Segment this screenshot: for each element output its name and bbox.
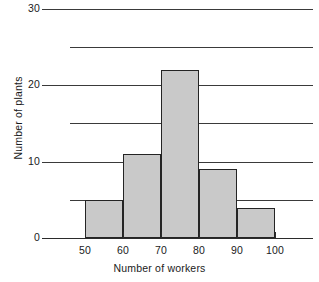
ytick-stub-30 (42, 9, 85, 10)
xtick-mark-90 (237, 232, 238, 239)
xtick-label-80: 80 (179, 244, 219, 256)
ytick-label-30: 30 (6, 3, 40, 14)
xtick-mark-80 (199, 232, 200, 239)
ytick-label-0: 0 (6, 232, 40, 243)
gridline-30 (85, 9, 313, 10)
ytick-stub-10 (42, 162, 85, 163)
gridline-10 (85, 162, 313, 163)
ytick-stub-20 (42, 85, 85, 86)
xtick-mark-100 (275, 232, 276, 239)
xtick-label-70: 70 (141, 244, 181, 256)
bar-60-70 (123, 154, 161, 238)
ytick-30: 30 (0, 3, 40, 14)
ytick-0: 0 (0, 232, 40, 243)
x-axis-title: Number of workers (0, 262, 319, 274)
y-axis-title: Number of plants (12, 48, 24, 188)
xtick-mark-50 (85, 232, 86, 239)
gridline-15 (85, 123, 313, 124)
xtick-label-100: 100 (255, 244, 295, 256)
ytick-stub-5 (70, 200, 85, 201)
gridline-20 (85, 85, 313, 86)
ytick-stub-25 (70, 47, 85, 48)
xtick-label-90: 90 (217, 244, 257, 256)
histogram-chart: 30 20 10 0 50 60 70 80 90 100 Number of … (0, 0, 319, 282)
bar-50-60 (85, 200, 123, 238)
xtick-label-60: 60 (103, 244, 143, 256)
x-axis-line (42, 238, 313, 239)
bar-90-100 (237, 208, 275, 238)
xtick-mark-60 (123, 232, 124, 239)
bar-70-80 (161, 70, 199, 238)
bar-80-90 (199, 169, 237, 238)
ytick-stub-15 (70, 123, 85, 124)
xtick-mark-70 (161, 232, 162, 239)
xtick-label-50: 50 (65, 244, 105, 256)
gridline-25 (85, 47, 313, 48)
